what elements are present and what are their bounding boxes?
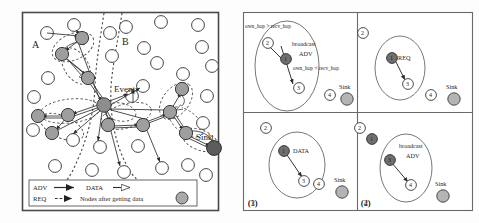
- node-4-label: 4: [429, 92, 432, 98]
- node-1-label: 1: [282, 148, 285, 154]
- data-node: [163, 105, 176, 118]
- sink-node: [437, 190, 449, 202]
- node-4-label: 4: [328, 92, 331, 98]
- data-node-event-hub: [97, 98, 111, 112]
- node-1-label: 1: [370, 136, 373, 142]
- sink-label: Sink: [446, 83, 458, 90]
- sink-label: Sink: [196, 132, 213, 142]
- legend: ADV DATA REQ Nodes after getting data: [29, 180, 197, 206]
- node-4-label: 4: [409, 182, 412, 188]
- plain-node: [201, 90, 214, 103]
- data-node: [45, 126, 58, 139]
- data-node: [61, 108, 74, 121]
- broadcast-label: broadcast: [399, 142, 423, 149]
- node-3-label: 3: [388, 157, 391, 163]
- plain-node: [156, 162, 169, 175]
- data-node: [101, 118, 114, 131]
- data-node: [179, 126, 192, 139]
- plain-node: [104, 27, 117, 40]
- node-4-label: 4: [317, 181, 320, 187]
- plain-node: [138, 42, 151, 55]
- plain-node: [182, 159, 195, 172]
- plain-node: [42, 72, 55, 85]
- adv-label: ADV: [406, 152, 420, 159]
- step-4-number: (4): [361, 199, 371, 208]
- node-3-label: 3: [406, 81, 409, 87]
- plain-node: [177, 68, 190, 81]
- req-label: REQ: [398, 54, 411, 61]
- region-label-a: A: [32, 39, 40, 50]
- own-hop-less-label: own_hop < recv_hop: [293, 65, 339, 71]
- legend-adv-label: ADV: [33, 184, 48, 191]
- plain-node: [197, 117, 210, 130]
- node-3-label: 3: [297, 85, 300, 91]
- step-3-number: (3): [248, 199, 258, 208]
- sink-label: Sink: [339, 83, 351, 90]
- sink-node: [207, 141, 222, 156]
- plain-node: [68, 19, 81, 32]
- legend-box: [29, 180, 197, 206]
- plain-node: [132, 140, 145, 153]
- plain-node: [86, 164, 99, 177]
- data-node: [31, 109, 44, 122]
- data-node: [81, 71, 94, 84]
- sink-label: Sink: [435, 180, 447, 187]
- plain-node: [137, 80, 150, 93]
- data-node: [136, 118, 149, 131]
- data-node: [55, 47, 68, 60]
- data-node: [175, 82, 188, 95]
- figure-root: A B Event Sink ADV DATA REQ Nodes after …: [0, 0, 479, 223]
- plain-node: [206, 60, 219, 73]
- node-2-label: 2: [266, 40, 269, 46]
- legend-nodes-label: Nodes after getting data: [80, 195, 143, 202]
- plain-node: [106, 50, 119, 63]
- node-2-label: 2: [361, 30, 364, 36]
- plain-node: [49, 160, 62, 173]
- plain-node: [67, 134, 80, 147]
- node-2-label: 2: [264, 125, 267, 131]
- region-label-b: B: [122, 36, 129, 47]
- legend-data-label: DATA: [86, 184, 103, 191]
- sink-node: [341, 93, 353, 105]
- data-node: [75, 31, 88, 44]
- node-1-label: 1: [284, 56, 287, 62]
- plain-node: [118, 166, 131, 179]
- event-label: Event: [114, 84, 135, 94]
- plain-node: [94, 141, 107, 154]
- legend-node-circle-icon: [176, 192, 188, 204]
- plain-node: [155, 16, 168, 29]
- node-1-label: 1: [390, 55, 393, 61]
- plain-node: [200, 169, 213, 182]
- plain-node: [120, 21, 133, 34]
- node-3-label: 3: [302, 178, 305, 184]
- adv-label: ADV: [299, 50, 313, 57]
- plain-node: [28, 91, 41, 104]
- node-2-label: 2: [358, 125, 361, 131]
- plain-node: [151, 57, 164, 70]
- plain-node: [27, 124, 40, 137]
- sink-label: Sink: [334, 176, 346, 183]
- legend-req-label: REQ: [33, 195, 46, 202]
- data-label: DATA: [293, 147, 310, 154]
- plain-node: [196, 41, 209, 54]
- sink-node: [448, 93, 460, 105]
- figure-canvas: A B Event Sink ADV DATA REQ Nodes after …: [0, 0, 479, 223]
- sink-node: [336, 186, 348, 198]
- plain-node: [192, 19, 205, 32]
- own-hop-greater-label: own_hop > recv_hop: [245, 23, 291, 29]
- broadcast-label: broadcast: [292, 40, 316, 47]
